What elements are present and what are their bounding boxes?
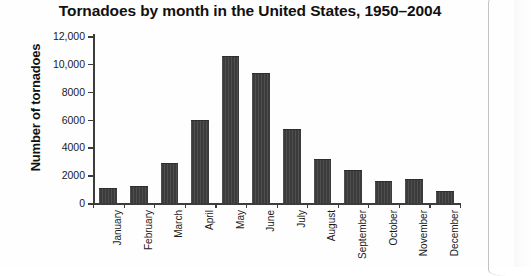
y-axis-tick-label: 8000 bbox=[62, 86, 85, 98]
x-axis-tick bbox=[338, 203, 339, 208]
plot-area: 0200040006000800010,00012,000 JanuaryFeb… bbox=[93, 36, 460, 203]
bar-november bbox=[405, 179, 423, 203]
chart-title: Tornadoes by month in the United States,… bbox=[0, 2, 500, 20]
y-axis-tick-label: 2000 bbox=[62, 169, 85, 181]
x-axis-tick bbox=[307, 203, 308, 208]
y-axis-tick-label: 0 bbox=[79, 197, 85, 209]
bar-february bbox=[130, 186, 148, 203]
x-axis-label-may: May bbox=[235, 210, 246, 229]
bar-december bbox=[436, 191, 454, 203]
y-axis-line bbox=[93, 34, 95, 205]
bar-january bbox=[99, 188, 117, 203]
y-axis-tick bbox=[88, 147, 93, 149]
x-axis-label-july: July bbox=[296, 210, 307, 228]
x-axis-label-january: January bbox=[112, 210, 123, 246]
y-axis-tick bbox=[88, 92, 93, 94]
x-axis-tick bbox=[124, 203, 125, 208]
x-axis-label-august: August bbox=[326, 210, 337, 241]
x-axis-tick bbox=[429, 203, 430, 208]
bar-march bbox=[161, 163, 179, 203]
x-axis-tick bbox=[277, 203, 278, 208]
x-axis-tick bbox=[185, 203, 186, 208]
y-axis-tick bbox=[88, 120, 93, 122]
y-axis-tick-label: 10,000 bbox=[53, 58, 85, 70]
x-axis-tick bbox=[215, 203, 216, 208]
bar-october bbox=[375, 181, 393, 203]
bar-august bbox=[314, 159, 332, 203]
x-axis-label-october: October bbox=[388, 210, 399, 246]
x-axis-label-march: March bbox=[173, 210, 184, 238]
x-axis-label-april: April bbox=[204, 210, 215, 230]
bar-june bbox=[252, 73, 270, 203]
y-axis-tick-label: 12,000 bbox=[53, 30, 85, 42]
x-axis-label-december: December bbox=[449, 210, 460, 256]
x-axis-label-february: February bbox=[143, 210, 154, 250]
y-axis-tick bbox=[88, 64, 93, 66]
x-axis-tick bbox=[93, 203, 94, 208]
y-axis-tick bbox=[88, 175, 93, 177]
x-axis-tick bbox=[246, 203, 247, 208]
bar-may bbox=[222, 56, 240, 203]
bar-july bbox=[283, 129, 301, 203]
x-axis-tick bbox=[154, 203, 155, 208]
x-axis-tick bbox=[368, 203, 369, 208]
bar-april bbox=[191, 120, 209, 203]
x-axis-label-november: November bbox=[418, 210, 429, 256]
y-axis-tick bbox=[88, 36, 93, 38]
x-axis-label-september: September bbox=[357, 210, 368, 259]
page-edge-curve bbox=[488, 0, 515, 276]
y-axis-title: Number of tornadoes bbox=[28, 20, 43, 195]
y-axis-tick-label: 6000 bbox=[62, 114, 85, 126]
x-axis-tick bbox=[460, 203, 461, 208]
page-edge-shading bbox=[514, 0, 531, 267]
y-axis-tick-label: 4000 bbox=[62, 141, 85, 153]
x-axis-tick bbox=[399, 203, 400, 208]
bar-september bbox=[344, 170, 362, 203]
x-axis-label-june: June bbox=[265, 210, 276, 232]
